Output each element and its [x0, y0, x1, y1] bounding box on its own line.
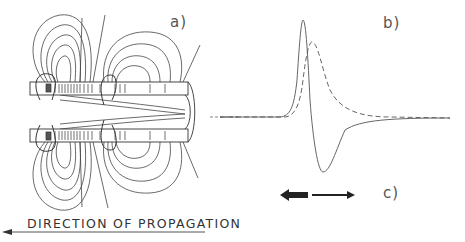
- thick-left-arrow: [280, 189, 308, 201]
- panel-c-label: c): [383, 184, 399, 202]
- propagation-label: DIRECTION OF PROPAGATION: [27, 216, 241, 231]
- solid-waveform: [220, 20, 450, 172]
- waveform-plot: [220, 20, 450, 172]
- panel-a-label: a): [170, 13, 187, 31]
- field-lines-interior: [60, 95, 185, 129]
- dashed-waveform: [220, 42, 450, 118]
- current-arrows: [280, 189, 355, 201]
- thin-right-arrow: [347, 191, 355, 199]
- panel-b-label: b): [383, 14, 400, 32]
- field-lines-lower: [33, 142, 198, 210]
- figure-canvas: [0, 0, 465, 242]
